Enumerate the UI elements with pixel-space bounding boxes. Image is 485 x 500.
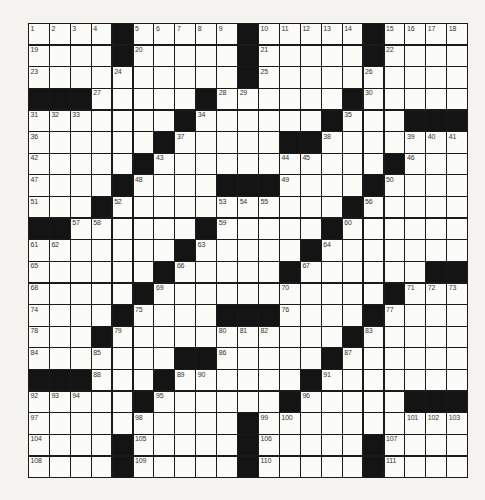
grid-cell[interactable]: 7	[175, 24, 195, 44]
grid-cell[interactable]: 51	[29, 197, 49, 217]
grid-cell[interactable]	[134, 327, 154, 347]
grid-cell[interactable]	[343, 132, 363, 152]
grid-cell[interactable]	[217, 132, 237, 152]
grid-cell[interactable]	[134, 219, 154, 239]
grid-cell[interactable]: 59	[217, 219, 237, 239]
grid-cell[interactable]	[301, 348, 321, 368]
grid-cell[interactable]	[385, 132, 405, 152]
grid-cell[interactable]	[196, 132, 216, 152]
grid-cell[interactable]	[343, 392, 363, 412]
grid-cell[interactable]	[238, 284, 258, 304]
grid-cell[interactable]	[447, 67, 467, 87]
grid-cell[interactable]	[113, 132, 133, 152]
grid-cell[interactable]: 38	[322, 132, 342, 152]
grid-cell[interactable]: 40	[426, 132, 446, 152]
grid-cell[interactable]	[217, 457, 237, 477]
grid-cell[interactable]	[364, 370, 384, 390]
grid-cell[interactable]: 99	[259, 413, 279, 433]
grid-cell[interactable]	[447, 240, 467, 260]
grid-cell[interactable]: 5	[134, 24, 154, 44]
grid-cell[interactable]	[385, 413, 405, 433]
grid-cell[interactable]: 23	[29, 67, 49, 87]
grid-cell[interactable]	[301, 89, 321, 109]
grid-cell[interactable]	[280, 370, 300, 390]
grid-cell[interactable]	[134, 197, 154, 217]
grid-cell[interactable]	[259, 262, 279, 282]
grid-cell[interactable]	[405, 67, 425, 87]
grid-cell[interactable]	[175, 284, 195, 304]
grid-cell[interactable]	[217, 67, 237, 87]
grid-cell[interactable]	[71, 46, 91, 66]
grid-cell[interactable]	[343, 46, 363, 66]
grid-cell[interactable]	[92, 175, 112, 195]
grid-cell[interactable]	[154, 89, 174, 109]
grid-cell[interactable]	[447, 370, 467, 390]
grid-cell[interactable]	[405, 435, 425, 455]
grid-cell[interactable]	[385, 262, 405, 282]
grid-cell[interactable]	[238, 154, 258, 174]
grid-cell[interactable]	[322, 327, 342, 347]
grid-cell[interactable]: 94	[71, 392, 91, 412]
grid-cell[interactable]	[196, 67, 216, 87]
grid-cell[interactable]: 79	[113, 327, 133, 347]
grid-cell[interactable]	[92, 284, 112, 304]
grid-cell[interactable]	[217, 240, 237, 260]
grid-cell[interactable]: 56	[364, 197, 384, 217]
grid-cell[interactable]	[217, 392, 237, 412]
grid-cell[interactable]	[50, 175, 70, 195]
grid-cell[interactable]	[92, 413, 112, 433]
grid-cell[interactable]: 21	[259, 46, 279, 66]
grid-cell[interactable]	[259, 240, 279, 260]
grid-cell[interactable]: 12	[301, 24, 321, 44]
grid-cell[interactable]	[426, 348, 446, 368]
grid-cell[interactable]	[134, 67, 154, 87]
grid-cell[interactable]	[175, 175, 195, 195]
grid-cell[interactable]	[92, 392, 112, 412]
grid-cell[interactable]	[50, 348, 70, 368]
grid-cell[interactable]: 90	[196, 370, 216, 390]
grid-cell[interactable]	[50, 457, 70, 477]
grid-cell[interactable]	[50, 413, 70, 433]
grid-cell[interactable]: 25	[259, 67, 279, 87]
grid-cell[interactable]	[259, 219, 279, 239]
grid-cell[interactable]	[175, 305, 195, 325]
grid-cell[interactable]	[447, 175, 467, 195]
grid-cell[interactable]	[238, 392, 258, 412]
grid-cell[interactable]: 34	[196, 111, 216, 131]
grid-cell[interactable]	[364, 219, 384, 239]
grid-cell[interactable]	[71, 284, 91, 304]
grid-cell[interactable]: 45	[301, 154, 321, 174]
grid-cell[interactable]	[280, 89, 300, 109]
grid-cell[interactable]	[447, 219, 467, 239]
grid-cell[interactable]: 72	[426, 284, 446, 304]
grid-cell[interactable]: 35	[343, 111, 363, 131]
grid-cell[interactable]: 14	[343, 24, 363, 44]
grid-cell[interactable]: 71	[405, 284, 425, 304]
grid-cell[interactable]	[196, 435, 216, 455]
grid-cell[interactable]: 11	[280, 24, 300, 44]
grid-cell[interactable]	[154, 457, 174, 477]
grid-cell[interactable]	[405, 370, 425, 390]
grid-cell[interactable]	[426, 435, 446, 455]
grid-cell[interactable]	[405, 457, 425, 477]
grid-cell[interactable]: 53	[217, 197, 237, 217]
grid-cell[interactable]: 66	[175, 262, 195, 282]
grid-cell[interactable]	[238, 370, 258, 390]
grid-cell[interactable]	[154, 305, 174, 325]
grid-cell[interactable]: 10	[259, 24, 279, 44]
grid-cell[interactable]: 31	[29, 111, 49, 131]
grid-cell[interactable]	[92, 262, 112, 282]
grid-cell[interactable]	[154, 327, 174, 347]
grid-cell[interactable]	[196, 175, 216, 195]
grid-cell[interactable]	[405, 327, 425, 347]
grid-cell[interactable]	[301, 284, 321, 304]
grid-cell[interactable]	[175, 154, 195, 174]
grid-cell[interactable]	[322, 435, 342, 455]
grid-cell[interactable]	[343, 370, 363, 390]
grid-cell[interactable]	[280, 457, 300, 477]
grid-cell[interactable]	[113, 240, 133, 260]
grid-cell[interactable]: 42	[29, 154, 49, 174]
grid-cell[interactable]	[301, 435, 321, 455]
grid-cell[interactable]	[259, 111, 279, 131]
grid-cell[interactable]	[196, 392, 216, 412]
